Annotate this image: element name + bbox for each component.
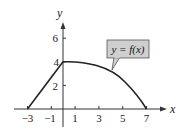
x-tick-label: −1: [44, 112, 56, 124]
x-tick-label: 1: [72, 112, 78, 124]
x-tick-label: −3: [22, 112, 34, 124]
y-tick-label: 4: [54, 56, 60, 68]
x-axis-label: x: [169, 102, 176, 116]
function-graph: −3 −1 1 3 5 7 2 4 6 x y y = f(x): [0, 0, 187, 134]
x-tick-label: 5: [120, 112, 126, 124]
y-axis-label: y: [56, 6, 63, 20]
x-axis-arrow-icon: [160, 107, 167, 112]
function-callout: y = f(x): [107, 40, 149, 70]
y-axis-arrow-icon: [61, 22, 66, 29]
x-tick-label: 7: [144, 112, 150, 124]
y-tick-label: 2: [53, 80, 59, 92]
x-tick-label: 3: [96, 112, 102, 124]
callout-label: y = f(x): [110, 43, 144, 56]
y-tick-label: 6: [53, 32, 59, 44]
function-curve-arc: [63, 62, 147, 109]
